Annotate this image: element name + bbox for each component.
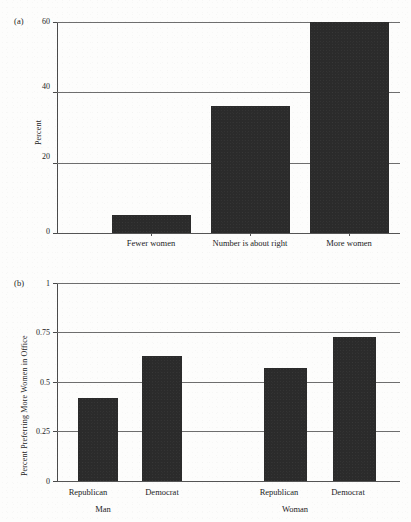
panel-b-group-label-woman: Woman — [225, 504, 365, 514]
panel-b-bar-woman-democrat — [333, 337, 376, 481]
panel-a-ytick-60: 60 — [28, 17, 50, 26]
panel-a-ytick-0: 0 — [28, 227, 50, 236]
panel-a-ytick-20: 20 — [28, 152, 50, 161]
panel-b-ytick-0: 0 — [26, 477, 50, 486]
panel-b-xtick-label-woman-democrat: Democrat — [298, 487, 398, 497]
panel-b-tick-025 — [53, 431, 57, 432]
panel-a-xtick-mark-2 — [250, 233, 251, 236]
panel-a-bar-number-about-right — [211, 106, 290, 233]
panel-b-tick-1 — [53, 283, 57, 284]
panel-b-ytick-1: 1 — [26, 279, 50, 288]
panel-b-tick-05 — [53, 382, 57, 383]
panel-a-xtick-mark-3 — [349, 233, 350, 236]
panel-a: (a) Percent 60 40 20 0 — [0, 0, 411, 258]
panel-b-plot-area — [57, 283, 400, 482]
panel-b-ytick-075: 0.75 — [26, 328, 50, 337]
panel-a-xtick-label-more-women: More women — [279, 238, 411, 248]
panel-a-tick-40 — [53, 92, 57, 93]
panel-b-bar-woman-republican — [264, 368, 307, 481]
panel-b: (b) Percent Preferring More Women in Off… — [0, 258, 411, 522]
panel-b-xtick-label-man-democrat: Democrat — [112, 487, 212, 497]
panel-b-gridline-075 — [57, 332, 400, 333]
panel-a-bar-fewer-women — [112, 215, 191, 233]
panel-b-bar-man-republican — [78, 398, 118, 481]
panel-b-bar-man-democrat — [142, 356, 182, 481]
panel-a-tick-0 — [53, 233, 57, 234]
panel-b-gridline-1 — [57, 283, 400, 284]
panel-b-group-label-man: Man — [33, 504, 173, 514]
panel-b-tag: (b) — [14, 278, 24, 288]
panel-a-tick-60 — [53, 22, 57, 23]
panel-b-tick-075 — [53, 332, 57, 333]
panel-b-ytick-05: 0.5 — [26, 378, 50, 387]
panel-b-gridline-0 — [57, 481, 400, 482]
panel-a-xtick-mark-1 — [151, 233, 152, 236]
figure-page: (a) Percent 60 40 20 0 — [0, 0, 411, 522]
panel-a-y-axis-spine — [57, 22, 58, 234]
panel-a-tag: (a) — [14, 16, 24, 26]
panel-b-y-axis-label: Percent Preferring More Women in Office — [20, 335, 29, 476]
panel-b-ytick-025: 0.25 — [26, 427, 50, 436]
panel-a-y-axis-label: Percent — [34, 120, 43, 145]
panel-b-tick-0 — [53, 481, 57, 482]
panel-a-plot-area — [57, 22, 400, 234]
panel-a-bar-more-women — [310, 22, 389, 233]
panel-a-tick-20 — [53, 163, 57, 164]
panel-a-ytick-40: 40 — [28, 82, 50, 91]
